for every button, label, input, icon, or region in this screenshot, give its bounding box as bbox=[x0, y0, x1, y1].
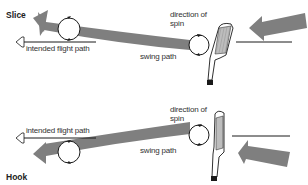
slice-diagram: Slice intended flight path swing path di… bbox=[0, 0, 308, 92]
slice-title: Slice bbox=[6, 10, 26, 20]
ball-flight-arrowhead bbox=[33, 142, 46, 164]
hook-swing-path-label: swing path bbox=[140, 146, 176, 155]
slice-intended-flight-path-label: intended flight path bbox=[26, 44, 90, 53]
hook-diagram: intended flight path swing path directio… bbox=[0, 92, 308, 185]
club-head-icon bbox=[211, 111, 224, 181]
ball-spin-circle bbox=[58, 18, 80, 40]
hook-direction-of-spin-label-2: spin bbox=[170, 114, 184, 123]
slice-direction-of-spin-label-1: direction of bbox=[170, 10, 207, 19]
swing-path-arrow bbox=[249, 13, 307, 41]
hook-title: Hook bbox=[6, 172, 27, 182]
hook-direction-of-spin-label-1: direction of bbox=[170, 105, 207, 114]
intended-flight-path-arrowhead bbox=[16, 37, 24, 47]
intended-flight-path-arrowhead bbox=[16, 133, 24, 143]
swing-path-arrow bbox=[238, 140, 290, 167]
ball-spin-circle bbox=[58, 141, 80, 163]
direction-of-spin-circle bbox=[189, 125, 209, 145]
direction-of-spin-circle bbox=[189, 35, 209, 55]
slice-swing-path-label: swing path bbox=[140, 52, 176, 61]
slice-direction-of-spin-label-2: spin bbox=[170, 19, 184, 28]
club-head-icon bbox=[207, 23, 233, 85]
hook-intended-flight-path-label: intended flight path bbox=[26, 126, 90, 135]
hook-illustration bbox=[0, 92, 308, 185]
